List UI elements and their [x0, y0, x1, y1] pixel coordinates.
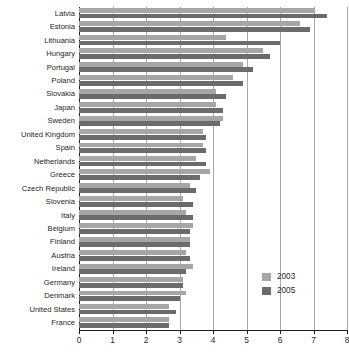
- legend-label-2005: 2005: [277, 287, 295, 295]
- x-tick-label: 1: [110, 336, 115, 344]
- bar-2005: [79, 323, 169, 328]
- bar-2003: [79, 237, 190, 242]
- x-tick: [314, 330, 315, 334]
- chart-row: Slovakia: [0, 88, 348, 101]
- category-label: Germany: [44, 279, 75, 287]
- bar-2005: [79, 67, 253, 72]
- x-tick: [347, 330, 348, 334]
- chart-row: Italy: [0, 209, 348, 222]
- bar-2003: [79, 277, 183, 282]
- x-tick: [280, 330, 281, 334]
- bar-2005: [79, 81, 243, 86]
- bar-2005: [79, 175, 200, 180]
- bar-2003: [79, 89, 216, 94]
- category-label: Ireland: [52, 266, 75, 274]
- bar-2005: [79, 256, 190, 261]
- x-tick: [79, 330, 80, 334]
- legend-item-2005: 2005: [262, 285, 295, 297]
- category-label: Poland: [51, 77, 75, 85]
- bar-2005: [79, 148, 206, 153]
- chart-row: Sweden: [0, 115, 348, 128]
- category-label: Japan: [54, 104, 75, 112]
- chart-row: Hungary: [0, 47, 348, 60]
- x-tick-label: 2: [144, 336, 149, 344]
- x-tick-label: 4: [211, 336, 216, 344]
- bar-2003: [79, 129, 203, 134]
- category-label: Sweden: [48, 118, 75, 126]
- category-label: Latvia: [55, 10, 75, 18]
- chart-row: Japan: [0, 101, 348, 114]
- category-label: Spain: [56, 144, 75, 152]
- category-label: Belgium: [48, 225, 75, 233]
- category-label: Estonia: [50, 23, 75, 31]
- bar-2003: [79, 317, 169, 322]
- category-label: Slovakia: [46, 91, 75, 99]
- x-tick: [146, 330, 147, 334]
- category-label: Italy: [61, 212, 75, 220]
- chart-row: United States: [0, 303, 348, 316]
- x-tick-label: 0: [77, 336, 82, 344]
- bar-2005: [79, 94, 226, 99]
- chart-row: Greece: [0, 168, 348, 181]
- chart-row: Spain: [0, 142, 348, 155]
- x-tick-label: 7: [311, 336, 316, 344]
- bar-2003: [79, 156, 196, 161]
- bar-2005: [79, 283, 183, 288]
- bar-2005: [79, 41, 280, 46]
- chart-row: Slovenia: [0, 195, 348, 208]
- bar-2005: [79, 54, 270, 59]
- chart-row: Latvia: [0, 7, 348, 20]
- bar-2003: [79, 21, 300, 26]
- category-label: United Kingdom: [21, 131, 75, 139]
- bar-2003: [79, 169, 210, 174]
- x-axis: 012345678: [0, 330, 348, 358]
- chart-row: United Kingdom: [0, 128, 348, 141]
- bar-2005: [79, 162, 206, 167]
- chart-row: Czech Republic: [0, 182, 348, 195]
- bar-2005: [79, 14, 327, 19]
- bar-2005: [79, 202, 193, 207]
- chart-row: Finland: [0, 236, 348, 249]
- category-label: Netherlands: [34, 158, 75, 166]
- chart-plot-area: LatviaEstoniaLithuaniaHungaryPortugalPol…: [0, 7, 348, 330]
- x-tick-label: 3: [177, 336, 182, 344]
- category-label: Finland: [50, 239, 75, 247]
- chart-row: Netherlands: [0, 155, 348, 168]
- bar-2005: [79, 188, 196, 193]
- category-label: Portugal: [47, 64, 75, 72]
- bar-2003: [79, 250, 186, 255]
- x-tick-label: 5: [244, 336, 249, 344]
- chart-row: Ireland: [0, 263, 348, 276]
- bar-2003: [79, 8, 314, 13]
- bar-2005: [79, 215, 193, 220]
- x-tick: [247, 330, 248, 334]
- chart-row: Belgium: [0, 222, 348, 235]
- bar-2005: [79, 121, 220, 126]
- x-tick: [113, 330, 114, 334]
- bar-2003: [79, 210, 186, 215]
- chart-row: Germany: [0, 276, 348, 289]
- x-tick-label: 6: [278, 336, 283, 344]
- legend-swatch-icon-2003: [262, 273, 271, 281]
- bar-2003: [79, 196, 183, 201]
- bar-2003: [79, 35, 226, 40]
- chart-row: Estonia: [0, 20, 348, 33]
- bar-2005: [79, 27, 310, 32]
- bar-2005: [79, 108, 223, 113]
- category-label: United States: [29, 306, 75, 314]
- bar-2003: [79, 48, 263, 53]
- x-tick-label: 8: [345, 336, 349, 344]
- bar-2003: [79, 116, 223, 121]
- category-label: Slovenia: [46, 198, 75, 206]
- x-tick: [180, 330, 181, 334]
- chart-row: Portugal: [0, 61, 348, 74]
- bar-2003: [79, 143, 203, 148]
- bar-2003: [79, 304, 169, 309]
- legend-label-2003: 2003: [277, 273, 295, 281]
- bar-2003: [79, 183, 190, 188]
- category-label: Hungary: [46, 50, 75, 58]
- category-label: France: [51, 319, 75, 327]
- category-label: Czech Republic: [22, 185, 75, 193]
- chart-row: Austria: [0, 249, 348, 262]
